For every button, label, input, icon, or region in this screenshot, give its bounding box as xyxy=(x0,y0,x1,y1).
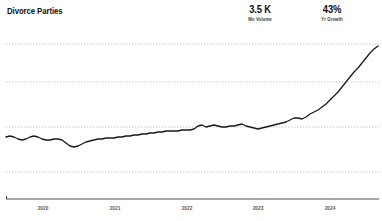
metric-yr-growth-label: Yr Growth xyxy=(305,17,358,23)
chart-svg xyxy=(0,32,382,200)
metric-yr-growth: 43% Yr Growth xyxy=(304,4,360,23)
metric-mo-volume-label: Mo Volume xyxy=(233,17,286,23)
metric-mo-volume-value: 3.5 K xyxy=(234,4,287,15)
page-title: Divorce Parties xyxy=(7,6,63,16)
series-line-0 xyxy=(6,46,378,147)
x-tick-label-2023: 2023 xyxy=(253,205,264,211)
x-tick-label-2024: 2024 xyxy=(325,205,336,211)
x-tick-label-2022: 2022 xyxy=(182,205,193,211)
metrics-group: 3.5 K Mo Volume 43% Yr Growth xyxy=(232,4,382,30)
x-axis-labels: 20202021202220232024 xyxy=(0,200,382,221)
x-axis-line-group xyxy=(6,196,379,199)
gridlines-group xyxy=(6,44,379,172)
line-chart-plot-area xyxy=(0,32,382,200)
x-tick-label-2020: 2020 xyxy=(38,205,49,211)
x-tick-label-2021: 2021 xyxy=(110,205,121,211)
series-group xyxy=(6,46,378,147)
metric-yr-growth-value: 43% xyxy=(306,4,359,15)
metric-mo-volume: 3.5 K Mo Volume xyxy=(232,4,288,23)
